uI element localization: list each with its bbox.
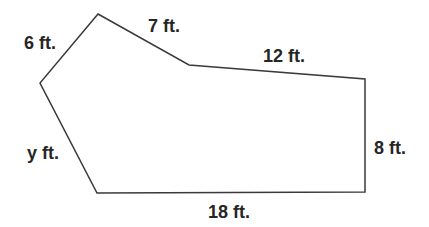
label-side-top: 7 ft. [148,17,180,35]
label-side-top-right: 12 ft. [263,47,305,65]
label-side-top-left: 6 ft. [24,34,56,52]
label-side-bottom: 18 ft. [208,203,250,221]
polygon-diagram [0,0,429,227]
label-side-left: y ft. [27,144,59,162]
hexagon-shape [40,14,365,193]
label-side-right: 8 ft. [374,139,406,157]
